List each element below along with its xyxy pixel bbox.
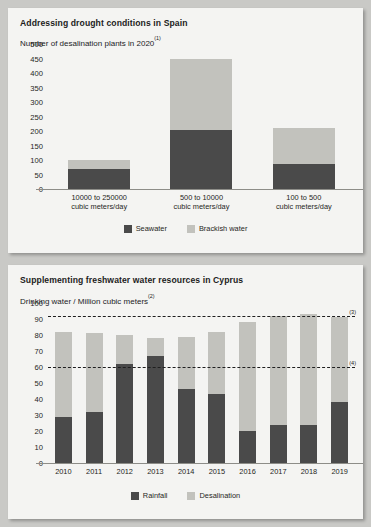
bar-segment-desalination[interactable]	[208, 332, 225, 394]
bar-segment-rainfall[interactable]	[300, 425, 317, 463]
reference-line-note: (3)	[349, 309, 356, 315]
chart-title-cyprus: Supplementing freshwater water resources…	[20, 275, 353, 285]
bar-slot[interactable]	[232, 303, 263, 463]
x-tick-label: 2015	[202, 467, 233, 476]
x-tick-label: 2012	[109, 467, 140, 476]
bar-slot[interactable]	[294, 303, 325, 463]
y-tick-label: 200	[30, 127, 43, 136]
stacked-bar[interactable]	[86, 333, 103, 463]
bar-segment-desalination[interactable]	[147, 338, 164, 356]
legend-swatch-icon	[131, 492, 139, 500]
stacked-bar[interactable]	[300, 314, 317, 463]
bar-segment-rainfall[interactable]	[116, 364, 133, 463]
y-tick-label: 90	[35, 315, 43, 324]
y-tick-label: 350	[30, 83, 43, 92]
legend-swatch-icon	[187, 225, 195, 233]
bar-segment-desalination[interactable]	[55, 332, 72, 417]
bar-segment-desalination[interactable]	[178, 337, 195, 390]
stacked-bar[interactable]	[147, 338, 164, 463]
stacked-bar[interactable]	[239, 322, 256, 463]
stacked-bar[interactable]	[55, 332, 72, 463]
bar-segment-desalination[interactable]	[300, 314, 317, 424]
y-tick-label: 60	[35, 363, 43, 372]
x-tick-label: 2019	[324, 467, 355, 476]
bar-slot[interactable]	[253, 44, 355, 189]
bar-slot[interactable]	[140, 303, 171, 463]
chart-subtitle-footnote-cyprus: (2)	[148, 293, 155, 299]
bar-segment-rainfall[interactable]	[55, 417, 72, 463]
bar-segment-desalination[interactable]	[116, 335, 133, 364]
x-tick-label: 500 to 10000cubic meters/day	[150, 193, 252, 211]
x-axis-line-cyprus	[36, 463, 363, 464]
stacked-bar[interactable]	[178, 337, 195, 463]
x-tick-label: 2011	[79, 467, 110, 476]
y-axis-spain: 500450400350300250200150100500	[20, 44, 46, 189]
bar-segment-rainfall[interactable]	[208, 394, 225, 463]
bar-segment-seawater[interactable]	[170, 130, 232, 189]
reference-line-note: (4)	[349, 360, 356, 366]
reference-line	[48, 316, 355, 317]
plot-area-cyprus: 1009080706050403020100 (3)(4)	[20, 303, 355, 463]
bar-slot[interactable]	[324, 303, 355, 463]
x-tick-label: 2010	[48, 467, 79, 476]
stacked-bar[interactable]	[208, 332, 225, 463]
bar-group-spain	[48, 44, 355, 189]
legend-label: Seawater	[136, 224, 167, 233]
legend-item[interactable]: Seawater	[124, 224, 167, 233]
legend-swatch-icon	[187, 492, 195, 500]
x-tick-label: 2018	[294, 467, 325, 476]
bar-segment-brackish-water[interactable]	[273, 128, 335, 164]
stacked-bar[interactable]	[68, 160, 130, 189]
bar-segment-brackish-water[interactable]	[170, 59, 232, 130]
bar-slot[interactable]	[171, 303, 202, 463]
bar-segment-rainfall[interactable]	[147, 356, 164, 463]
stacked-bar[interactable]	[270, 316, 287, 463]
legend-spain: SeawaterBrackish water	[8, 224, 363, 233]
legend-item[interactable]: Rainfall	[131, 491, 168, 500]
x-axis-line-spain	[36, 189, 363, 190]
stacked-bar[interactable]	[331, 317, 348, 463]
bar-slot[interactable]	[109, 303, 140, 463]
y-tick-label: 500	[30, 40, 43, 49]
bar-slot[interactable]	[48, 303, 79, 463]
bar-group-cyprus	[48, 303, 355, 463]
y-tick-label: 100	[30, 156, 43, 165]
legend-item[interactable]: Brackish water	[187, 224, 247, 233]
bar-segment-brackish-water[interactable]	[68, 160, 130, 169]
bar-slot[interactable]	[48, 44, 150, 189]
x-tick-label: 2016	[232, 467, 263, 476]
x-tick-label: 2017	[263, 467, 294, 476]
bar-segment-rainfall[interactable]	[270, 425, 287, 463]
bar-segment-rainfall[interactable]	[331, 402, 348, 463]
bar-slot[interactable]	[150, 44, 252, 189]
bar-segment-seawater[interactable]	[68, 169, 130, 189]
stacked-bar[interactable]	[170, 59, 232, 190]
bar-segment-seawater[interactable]	[273, 164, 335, 189]
stacked-bar[interactable]	[273, 128, 335, 189]
bar-slot[interactable]	[202, 303, 233, 463]
legend-swatch-icon	[124, 225, 132, 233]
chart-title-spain: Addressing drought conditions in Spain	[20, 18, 353, 28]
y-tick-label: 450	[30, 54, 43, 63]
bar-segment-desalination[interactable]	[239, 322, 256, 431]
bar-segment-rainfall[interactable]	[178, 389, 195, 463]
x-tick-label: 2013	[140, 467, 171, 476]
legend-item[interactable]: Desalination	[187, 491, 240, 500]
y-tick-label: 20	[35, 427, 43, 436]
bar-slot[interactable]	[79, 303, 110, 463]
bar-segment-rainfall[interactable]	[239, 431, 256, 463]
y-tick-label: 250	[30, 112, 43, 121]
bar-segment-desalination[interactable]	[331, 317, 348, 402]
bar-segment-rainfall[interactable]	[86, 412, 103, 463]
bar-segment-desalination[interactable]	[270, 316, 287, 425]
bar-segment-desalination[interactable]	[86, 333, 103, 411]
y-tick-label: 100	[30, 299, 43, 308]
chart-panel-cyprus: Supplementing freshwater water resources…	[8, 265, 363, 519]
y-tick-label: 400	[30, 69, 43, 78]
x-axis-labels-cyprus: 2010201120122013201420152016201720182019	[48, 467, 355, 476]
chart-panel-spain: Addressing drought conditions in Spain N…	[8, 8, 363, 253]
stacked-bar[interactable]	[116, 335, 133, 463]
y-tick-label: 80	[35, 331, 43, 340]
bar-slot[interactable]	[263, 303, 294, 463]
y-tick-label: 50	[35, 379, 43, 388]
